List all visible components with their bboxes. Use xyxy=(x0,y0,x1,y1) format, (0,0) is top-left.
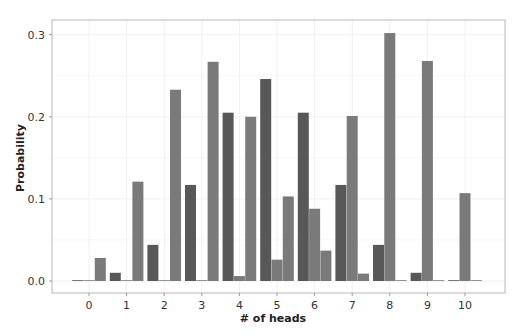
bar-series-left-5 xyxy=(260,79,271,281)
bar-series-center-0 xyxy=(84,280,95,281)
x-tick-label: 5 xyxy=(274,299,281,312)
bar-series-right-10 xyxy=(471,280,482,281)
bar-series-center-2 xyxy=(159,280,170,281)
x-tick-label: 9 xyxy=(424,299,431,312)
bar-series-left-6 xyxy=(298,113,309,281)
x-tick-label: 0 xyxy=(86,299,93,312)
x-tick-label: 7 xyxy=(349,299,356,312)
bar-series-center-4 xyxy=(234,276,245,281)
y-tick-label: 0.0 xyxy=(28,275,46,288)
bar-series-right-9 xyxy=(433,280,444,281)
bar-series-right-4 xyxy=(245,117,256,281)
bar-series-center-9 xyxy=(422,61,433,281)
bar-series-right-7 xyxy=(358,274,369,281)
bar-series-right-6 xyxy=(320,251,331,281)
bar-series-center-6 xyxy=(309,209,320,281)
x-tick-label: 6 xyxy=(311,299,318,312)
y-axis: 0.00.10.20.3 xyxy=(28,29,53,288)
y-tick-label: 0.2 xyxy=(28,111,46,124)
bar-series-center-10 xyxy=(460,193,471,281)
y-axis-title: Probability xyxy=(14,124,27,192)
bar-series-right-5 xyxy=(283,196,294,281)
probability-bar-chart: 0.00.10.20.3 012345678910 # of heads Pro… xyxy=(0,0,521,336)
x-tick-label: 2 xyxy=(161,299,168,312)
x-tick-label: 10 xyxy=(458,299,472,312)
bar-series-center-7 xyxy=(347,116,358,281)
x-tick-label: 3 xyxy=(198,299,205,312)
gridlines xyxy=(52,20,505,293)
x-tick-label: 1 xyxy=(123,299,130,312)
bar-series-left-10 xyxy=(448,280,459,281)
bar-series-center-1 xyxy=(121,280,132,281)
y-tick-label: 0.1 xyxy=(28,193,46,206)
bar-series-left-0 xyxy=(72,280,83,281)
bar-series-left-1 xyxy=(110,273,121,281)
plot-frame xyxy=(52,20,505,293)
bar-series-left-9 xyxy=(411,273,422,281)
bar-series-left-4 xyxy=(223,113,234,281)
x-axis: 012345678910 xyxy=(86,293,473,312)
bar-series-right-2 xyxy=(170,90,181,281)
x-tick-label: 4 xyxy=(236,299,243,312)
bar-series-right-1 xyxy=(132,182,143,281)
bar-series-right-0 xyxy=(95,258,106,281)
bar-series-left-3 xyxy=(185,185,196,281)
bar-series-left-7 xyxy=(335,185,346,281)
y-tick-label: 0.3 xyxy=(28,29,46,42)
bar-series-center-8 xyxy=(384,33,395,281)
bar-series-right-8 xyxy=(396,280,407,281)
x-tick-label: 8 xyxy=(386,299,393,312)
bar-series-left-2 xyxy=(147,245,158,281)
bar-series-center-5 xyxy=(272,260,283,281)
bar-series-left-8 xyxy=(373,245,384,281)
x-axis-title: # of heads xyxy=(240,312,307,325)
bar-series-center-3 xyxy=(196,280,207,281)
bar-series-right-3 xyxy=(208,62,219,281)
